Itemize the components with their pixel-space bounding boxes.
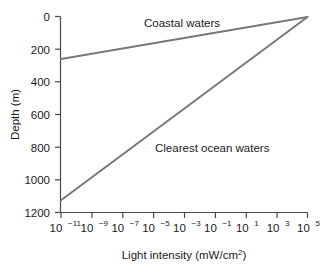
- y-tick-label-1200: 1200: [24, 207, 50, 219]
- x-tick-exponent-4: −3: [192, 219, 202, 228]
- x-tick-exponent-5: −1: [222, 219, 232, 228]
- y-tick-label-800: 800: [31, 142, 50, 154]
- x-tick-exponent-6: 1: [254, 219, 259, 228]
- series-label-coastal-waters: Coastal waters: [144, 17, 220, 29]
- x-tick-mantissa-5: 10: [204, 222, 217, 234]
- series-label-clearest-ocean-waters: Clearest ocean waters: [155, 142, 270, 154]
- x-tick-exponent-3: −5: [161, 219, 171, 228]
- x-tick-mantissa-6: 10: [236, 222, 249, 234]
- y-tick-label-400: 400: [31, 76, 50, 88]
- y-tick-label-600: 600: [31, 109, 50, 121]
- y-tick-label-0: 0: [44, 11, 50, 23]
- x-tick-exponent-0: −11: [68, 219, 82, 228]
- x-tick-exponent-2: −7: [130, 219, 140, 228]
- x-tick-exponent-7: 3: [285, 219, 290, 228]
- x-axis-title-tail: ): [242, 249, 246, 261]
- x-tick-exponent-1: −9: [99, 219, 109, 228]
- x-tick-mantissa-0: 10: [50, 222, 63, 234]
- x-tick-mantissa-4: 10: [173, 222, 186, 234]
- x-tick-mantissa-3: 10: [142, 222, 155, 234]
- light-intensity-depth-chart: 0 200 400 600 800 1000 1200 10 −11 10 −9: [0, 0, 324, 272]
- y-axis-title: Depth (m): [9, 89, 21, 140]
- x-tick-mantissa-1: 10: [81, 222, 94, 234]
- chart-figure: 0 200 400 600 800 1000 1200 10 −11 10 −9: [0, 0, 324, 272]
- x-axis-title-base: Light intensity (mW/cm: [122, 249, 238, 261]
- y-tick-label-200: 200: [31, 44, 50, 56]
- x-tick-mantissa-7: 10: [267, 222, 280, 234]
- x-tick-exponent-8: 5: [316, 219, 321, 228]
- svg-text:Light intensity (mW/cm2): Light intensity (mW/cm2): [122, 248, 247, 261]
- x-tick-mantissa-2: 10: [111, 222, 124, 234]
- x-axis-title: Light intensity (mW/cm2): [122, 248, 247, 261]
- y-tick-label-1000: 1000: [24, 174, 50, 186]
- x-tick-mantissa-8: 10: [297, 222, 310, 234]
